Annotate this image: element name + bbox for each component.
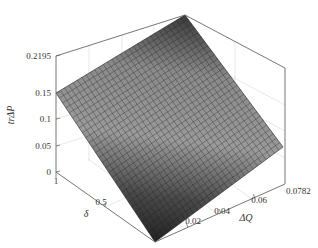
- delta-tick-0: 0: [148, 221, 153, 231]
- z-axis-label: trΔP: [5, 106, 16, 125]
- z-tick-01: 0.1: [40, 114, 51, 124]
- dq-tick-max: 0.0782: [286, 186, 311, 196]
- delta-tick-1: 1: [54, 176, 59, 186]
- delta-axis-label: δ: [84, 208, 89, 219]
- dq-tick-0: 0: [156, 222, 161, 232]
- dq-tick-006: 0.06: [251, 195, 267, 205]
- z-tick-max: 0.2195: [26, 51, 51, 61]
- dq-tick-004: 0.04: [214, 206, 230, 216]
- dq-axis-label: ΔQ: [238, 212, 253, 223]
- surface-plot: 0 0.05 0.1 0.15 0.2195 trΔP 1 0.5 0 δ 0 …: [0, 0, 318, 248]
- z-axis-ticks: [56, 55, 60, 172]
- z-tick-0: 0: [47, 167, 52, 177]
- delta-tick-05: 0.5: [95, 197, 107, 207]
- z-tick-015: 0.15: [35, 88, 51, 98]
- dq-tick-002: 0.02: [185, 216, 201, 226]
- z-tick-005: 0.05: [35, 141, 51, 151]
